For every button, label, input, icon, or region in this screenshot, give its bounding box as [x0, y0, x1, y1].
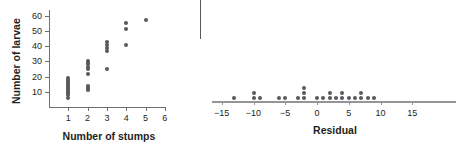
residual-point	[334, 96, 338, 100]
residual-x-tick	[317, 101, 318, 105]
scatter-y-tick-label: 10	[26, 87, 42, 97]
residual-point	[353, 96, 357, 100]
scatter-y-tick	[45, 46, 49, 47]
scatter-y-tick-label: 20	[26, 72, 42, 82]
scatter-y-tick	[45, 92, 49, 93]
scatter-point	[124, 21, 128, 25]
scatter-point	[105, 67, 109, 71]
residual-point	[347, 96, 351, 100]
scatter-x-tick	[126, 107, 127, 111]
residual-x-tick	[412, 101, 413, 105]
residual-point	[372, 96, 376, 100]
scatter-x-tick-label: 5	[140, 113, 152, 123]
residual-x-tick	[285, 101, 286, 105]
residual-point	[283, 96, 287, 100]
residual-x-tick	[222, 101, 223, 105]
residual-point	[252, 96, 256, 100]
residual-x-tick-label: −10	[241, 108, 267, 118]
scatter-x-tick-label: 6	[159, 113, 171, 123]
scatter-x-tick-label: 4	[120, 113, 132, 123]
residual-point	[321, 96, 325, 100]
residual-point	[277, 96, 281, 100]
scatter-y-tick-label: 30	[26, 56, 42, 66]
residual-x-axis-line	[212, 101, 456, 103]
scatter-y-tick	[45, 31, 49, 32]
residual-x-tick	[349, 101, 350, 105]
scatter-y-tick	[45, 16, 49, 17]
residual-point	[366, 96, 370, 100]
residual-point	[340, 91, 344, 95]
residual-point	[252, 91, 256, 95]
residual-x-tick-label: 10	[368, 108, 394, 118]
scatter-y-axis-line	[49, 10, 50, 107]
residual-point	[232, 96, 236, 100]
residual-point	[359, 96, 363, 100]
scatter-x-tick	[107, 107, 108, 111]
residual-zero-reference-line	[200, 0, 201, 39]
scatter-y-tick-label: 50	[26, 26, 42, 36]
residual-x-tick-label: 0	[304, 108, 330, 118]
scatter-point	[86, 72, 90, 76]
residual-dotplot-panel: −15−10−5051015 Residual	[200, 0, 466, 150]
statistics-figure: Number of larvae Number of stumps 102030…	[0, 0, 466, 150]
residual-point	[328, 96, 332, 100]
residual-x-axis-title: Residual	[280, 124, 390, 136]
scatter-x-tick-label: 3	[101, 113, 113, 123]
scatter-x-tick	[165, 107, 166, 111]
scatter-x-tick-label: 2	[82, 113, 94, 123]
residual-x-tick	[254, 101, 255, 105]
residual-x-tick-label: 5	[336, 108, 362, 118]
residual-point	[296, 96, 300, 100]
scatter-point	[144, 18, 148, 22]
scatter-y-tick-label: 60	[26, 11, 42, 21]
scatter-x-tick	[146, 107, 147, 111]
residual-point	[328, 91, 332, 95]
scatter-x-tick-label: 1	[62, 113, 74, 123]
scatter-y-tick	[45, 77, 49, 78]
scatter-y-tick-label: 40	[26, 41, 42, 51]
scatterplot-panel: Number of larvae Number of stumps 102030…	[0, 0, 200, 150]
scatter-x-tick	[88, 107, 89, 111]
residual-point	[258, 96, 262, 100]
residual-point	[302, 91, 306, 95]
residual-point	[302, 86, 306, 90]
residual-point	[359, 91, 363, 95]
scatter-y-tick	[45, 61, 49, 62]
residual-point	[340, 96, 344, 100]
residual-x-tick-label: −5	[272, 108, 298, 118]
scatter-point	[124, 27, 128, 31]
scatter-x-axis-title: Number of stumps	[48, 130, 170, 142]
scatter-x-tick	[68, 107, 69, 111]
scatter-point	[105, 40, 109, 44]
residual-point	[302, 96, 306, 100]
scatter-point	[86, 84, 90, 88]
residual-x-tick	[381, 101, 382, 105]
scatter-point	[124, 43, 128, 47]
scatter-y-axis-title: Number of larvae	[10, 20, 22, 104]
residual-x-tick-label: −15	[209, 108, 235, 118]
residual-x-tick-label: 15	[399, 108, 425, 118]
residual-point	[315, 96, 319, 100]
